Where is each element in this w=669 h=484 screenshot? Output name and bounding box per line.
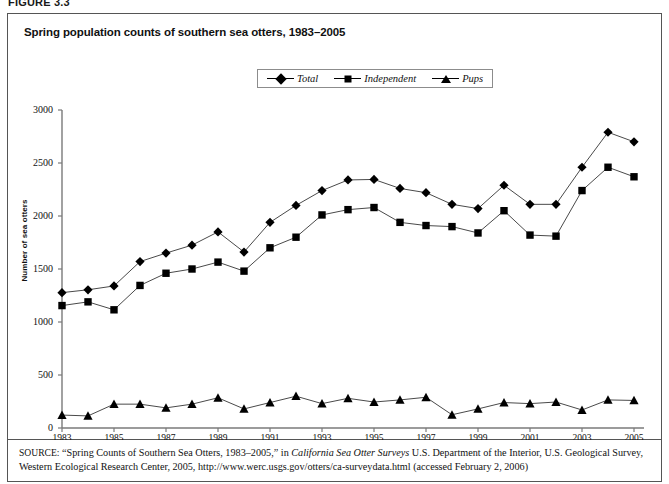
figure-container: FIGURE 3.3 Spring population counts of s…: [0, 0, 669, 484]
y-axis-title: Number of sea otters: [20, 181, 29, 301]
source-label: SOURCE:: [19, 447, 60, 458]
y-axis-tick-label: 3000: [13, 104, 53, 115]
legend-label-pups: Pups: [462, 73, 483, 84]
source-part1: “Spring Counts of Southern Sea Otters, 1…: [60, 447, 292, 458]
diamond-marker-icon: [267, 73, 294, 84]
chart-legend: Total Independent Pups: [257, 69, 493, 88]
legend-label-independent: Independent: [364, 73, 416, 84]
source-italic-title: California Sea Otter Surveys: [291, 447, 409, 458]
legend-item-total[interactable]: Total: [267, 73, 318, 84]
square-marker-icon: [334, 73, 361, 84]
source-note-box: SOURCE: “Spring Counts of Southern Sea O…: [7, 440, 662, 482]
legend-label-total: Total: [297, 73, 318, 84]
source-note: SOURCE: “Spring Counts of Southern Sea O…: [19, 446, 653, 474]
y-axis-tick-label: 500: [13, 369, 53, 380]
y-axis-tick-label: 2500: [13, 157, 53, 168]
y-axis-tick-label: 1000: [13, 316, 53, 327]
legend-item-pups[interactable]: Pups: [432, 73, 483, 84]
y-axis-tick-label: 2000: [13, 210, 53, 221]
chart-title: Spring population counts of southern sea…: [24, 26, 345, 38]
y-axis-tick-label: 1500: [13, 263, 53, 274]
triangle-marker-icon: [432, 73, 459, 84]
legend-item-independent[interactable]: Independent: [334, 73, 416, 84]
figure-number: FIGURE 3.3: [8, 0, 70, 7]
y-axis-tick-label: 0: [13, 422, 53, 433]
